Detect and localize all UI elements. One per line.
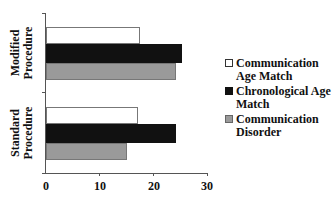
legend-label-line: Communication xyxy=(236,56,319,70)
bar-communication-disorder xyxy=(46,143,127,160)
category-label-modified: Modified Procedure xyxy=(9,13,35,93)
x-tick-label: 30 xyxy=(192,179,222,194)
x-tick xyxy=(99,173,100,176)
legend-swatch-black xyxy=(225,87,233,95)
x-axis xyxy=(45,173,208,174)
bar-chronological-age-match xyxy=(46,124,176,143)
bar-communication-age-match xyxy=(46,27,140,44)
legend-label-line: Match xyxy=(236,97,269,111)
legend-item-communication-disorder: CommunicationDisorder xyxy=(225,113,332,139)
x-tick-label: 0 xyxy=(31,179,61,194)
bar-communication-disorder xyxy=(46,63,176,80)
legend-swatch-gray xyxy=(225,115,233,123)
legend-label: CommunicationAge Match xyxy=(236,57,319,83)
category-label-line: Procedure xyxy=(22,13,35,93)
legend: CommunicationAge Match Chronological Age… xyxy=(225,57,332,141)
legend-label-line: Disorder xyxy=(236,125,281,139)
bar-chart: 0 10 20 30 Modified Procedure Standard P… xyxy=(0,0,332,206)
x-tick xyxy=(207,173,208,176)
bar-chronological-age-match xyxy=(46,44,182,63)
legend-item-communication-age-match: CommunicationAge Match xyxy=(225,57,332,83)
category-label-line: Procedure xyxy=(22,93,35,173)
y-tick xyxy=(42,92,45,93)
legend-label-line: Communication xyxy=(236,112,319,126)
legend-label: Chronological AgeMatch xyxy=(236,85,331,111)
bar-communication-age-match xyxy=(46,107,138,124)
x-tick xyxy=(153,173,154,176)
y-tick xyxy=(42,13,45,14)
category-label-standard: Standard Procedure xyxy=(9,93,35,173)
x-tick-label: 20 xyxy=(139,179,169,194)
x-tick-label: 10 xyxy=(85,179,115,194)
legend-label: CommunicationDisorder xyxy=(236,113,319,139)
legend-swatch-white xyxy=(225,59,233,67)
legend-item-chronological-age-match: Chronological AgeMatch xyxy=(225,85,332,111)
legend-label-line: Chronological Age xyxy=(236,84,331,98)
legend-label-line: Age Match xyxy=(236,69,292,83)
